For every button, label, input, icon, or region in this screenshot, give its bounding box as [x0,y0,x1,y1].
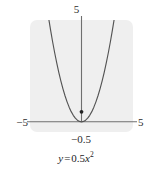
caption-exponent: 2 [90,150,94,159]
caption-coefficient: 0.5 [71,152,85,164]
x-axis-min-label: −5 [8,117,28,128]
graph-canvas [0,0,152,175]
x-axis-max-label: 5 [138,117,152,128]
y-axis-min-label: −0.5 [55,134,107,145]
vertex-point-marker [80,110,84,114]
y-axis-max-label: 5 [1,4,153,15]
figure-caption: y=0.5x2 [0,152,152,164]
parabola-figure: 5 −5 5 −0.5 y=0.5x2 [0,0,152,175]
